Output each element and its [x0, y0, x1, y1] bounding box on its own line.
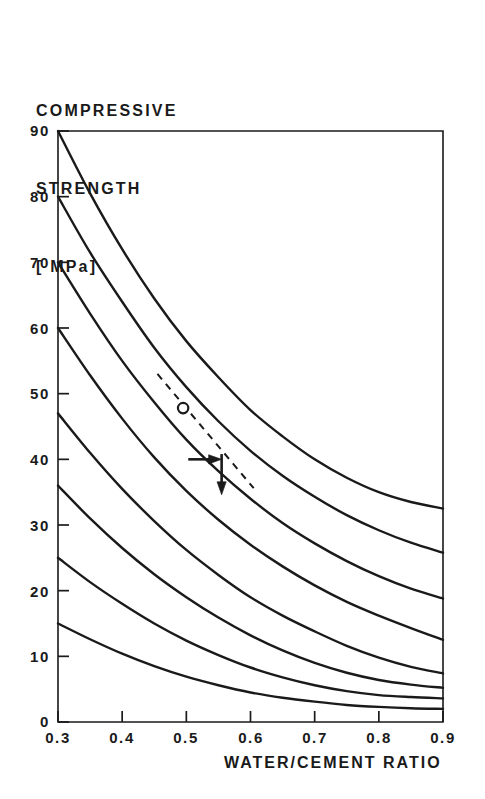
plot-frame [58, 131, 443, 722]
curve-curve-6 [58, 486, 443, 688]
curve-set [58, 131, 443, 709]
curve-curve-3 [58, 262, 443, 598]
trend-dashed-line [157, 374, 253, 488]
axis-ticks [58, 131, 443, 722]
horizontal-arrow-right-head [209, 455, 222, 464]
axis-frame [58, 131, 443, 722]
vertical-arrow-down-head [217, 482, 226, 495]
open-circle-marker [178, 403, 188, 413]
plot-area [0, 0, 485, 799]
chart-figure: COMPRESSIVE STRENGTH [ MPa] 90 80 70 60 … [0, 0, 485, 799]
